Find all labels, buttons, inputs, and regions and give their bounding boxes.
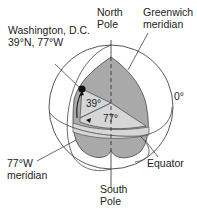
greenwich-label: Greenwich meridian — [143, 6, 193, 30]
washington-leader — [55, 64, 80, 88]
north-pole-label: North Pole — [97, 6, 123, 30]
zero-degree-label: 0° — [174, 90, 184, 102]
washington-dot — [78, 85, 85, 92]
latitude-angle-label: 39° — [86, 98, 101, 110]
meridian77-label: 77°W meridian — [7, 157, 47, 181]
longitude-angle-label: 77° — [103, 113, 118, 125]
washington-label: Washington, D.C. 39°N, 77°W — [8, 24, 90, 48]
south-pole-label: South Pole — [100, 183, 127, 207]
equator-label: Equator — [147, 157, 184, 169]
greenwich-leader — [128, 33, 148, 70]
